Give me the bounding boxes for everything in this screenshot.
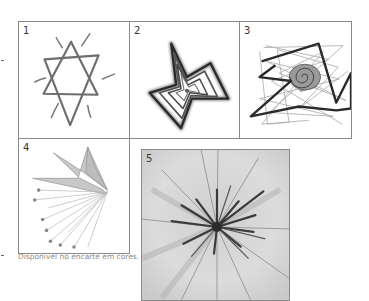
panel-number: 4	[23, 142, 29, 153]
panel-2: 2	[129, 21, 240, 139]
panel-3: 3	[239, 21, 352, 139]
panel-4: 4	[18, 138, 130, 254]
fan-rays-drawing	[19, 139, 129, 253]
panel-number: 5	[146, 153, 152, 164]
margin-mark	[1, 60, 4, 61]
hexagram-drawing	[19, 22, 129, 138]
margin-mark	[1, 255, 4, 256]
panel-number: 3	[244, 25, 250, 36]
concentric-star-drawing	[130, 22, 239, 138]
panel-number: 2	[134, 25, 140, 36]
panel-5: 5	[141, 149, 290, 301]
panel-1: 1	[18, 21, 130, 139]
panel-number: 1	[23, 25, 29, 36]
figure-caption: Disponível no encarte em cores.	[18, 252, 139, 261]
radial-burst-drawing	[142, 150, 289, 300]
spiral-polygon-drawing	[240, 22, 351, 138]
